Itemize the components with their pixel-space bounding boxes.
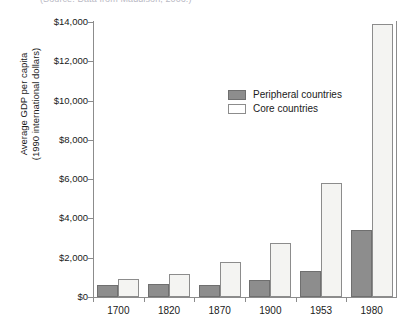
bar-core-1820 [169,274,190,297]
y-tick-label: $12,000 [34,55,88,66]
bar-peripheral-1700 [97,285,118,297]
bar-core-1870 [220,262,241,297]
bar-core-1953 [321,183,342,297]
bar-peripheral-1870 [199,285,220,297]
legend-swatch-core-icon [228,104,246,114]
legend-label-peripheral: Peripheral countries [253,89,342,100]
x-tick-mark [93,297,94,302]
y-tick-mark [88,22,93,23]
bar-group-1820 [148,22,190,297]
legend-swatch-peripheral-icon [228,90,246,100]
y-tick-mark [88,218,93,219]
y-tick-mark [88,258,93,259]
y-tick-mark [88,101,93,102]
bar-peripheral-1900 [249,280,270,297]
y-tick-mark [88,61,93,62]
chart-legend: Peripheral countries Core countries [228,88,342,116]
bar-peripheral-1953 [300,271,321,297]
x-tick-label-1980: 1980 [342,305,402,316]
legend-item-peripheral: Peripheral countries [228,88,342,101]
y-tick-label: $8,000 [34,134,88,145]
plot-area [93,22,397,297]
legend-label-core: Core countries [253,103,318,114]
x-tick-mark [346,297,347,302]
y-axis-ticks: $0$2,000$4,000$6,000$8,000$10,000$12,000… [28,0,88,328]
y-tick-label: $2,000 [34,252,88,263]
bar-chart: Average GDP per capita (1990 internation… [0,0,405,328]
bar-core-1900 [270,243,291,297]
bar-core-1700 [118,279,139,297]
x-tick-mark [245,297,246,302]
y-tick-label: $14,000 [34,16,88,27]
bar-group-1870 [199,22,241,297]
bar-core-1980 [372,24,393,297]
x-tick-mark [194,297,195,302]
bar-peripheral-1980 [351,230,372,297]
y-tick-label: $6,000 [34,173,88,184]
legend-item-core: Core countries [228,102,342,115]
y-tick-label: $10,000 [34,95,88,106]
bar-group-1953 [300,22,342,297]
y-tick-mark [88,179,93,180]
x-tick-mark [144,297,145,302]
y-tick-label: $0 [34,291,88,302]
bar-group-1900 [249,22,291,297]
y-tick-mark [88,140,93,141]
bar-group-1980 [351,22,393,297]
x-tick-mark [296,297,297,302]
bar-peripheral-1820 [148,284,169,297]
bar-group-1700 [97,22,139,297]
y-tick-label: $4,000 [34,212,88,223]
